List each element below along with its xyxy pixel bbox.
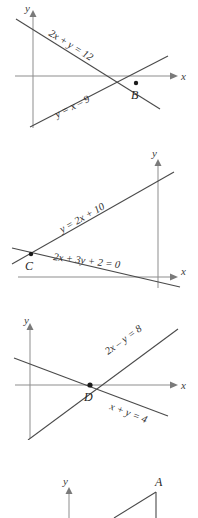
point-label-a: A <box>154 475 163 489</box>
equation-label-2: x + y = 4 <box>107 400 149 425</box>
line-2x-plus-3y-plus-2-equals-0 <box>12 248 180 287</box>
x-axis-arrowhead <box>170 274 178 281</box>
y-axis-arrowhead <box>66 487 73 494</box>
y-axis-arrowhead <box>30 10 37 17</box>
segment-to-point-a <box>114 492 156 518</box>
equation-label-1: 2x – y = 8 <box>103 322 145 356</box>
point-label-b: B <box>131 88 139 102</box>
x-axis-label: x <box>180 265 186 277</box>
y-axis-arrowhead <box>155 159 162 166</box>
graph-panel-1: y x B 2x + y = 12 y = x – 9 <box>0 0 198 130</box>
line-2x-plus-y-12 <box>16 19 160 109</box>
equation-label-1: 2x + y = 12 <box>47 27 96 63</box>
intersection-point-c <box>29 252 33 256</box>
x-axis-arrowhead <box>170 382 178 389</box>
x-axis-arrowhead <box>170 73 178 80</box>
graph-panel-2: y x C y = 2x + 10 2x + 3y + 2 = 0 <box>0 130 198 290</box>
point-label-c: C <box>25 259 34 273</box>
graph-panel-3: y x D 2x – y = 8 x + y = 4 <box>0 290 198 440</box>
figure-page: y x B 2x + y = 12 y = x – 9 y x C y = 2x… <box>0 0 198 518</box>
point-label-d: D <box>83 390 93 404</box>
y-axis-label: y <box>24 2 30 14</box>
intersection-point-d <box>87 382 92 387</box>
y-axis-label: y <box>23 314 29 326</box>
equation-label-1: y = 2x + 10 <box>57 200 107 235</box>
y-axis-label: y <box>151 147 157 159</box>
equation-label-2: 2x + 3y + 2 = 0 <box>53 251 122 270</box>
intersection-point-b <box>134 81 138 85</box>
equation-label-2: y = x – 9 <box>52 93 92 121</box>
y-axis-label: y <box>62 475 68 487</box>
graph-panel-4: y A <box>0 440 198 518</box>
line-y-equals-x-minus-9 <box>30 56 168 127</box>
line-y-equals-2x-plus-10 <box>12 172 174 264</box>
x-axis-label: x <box>180 379 186 391</box>
x-axis-label: x <box>180 70 186 82</box>
